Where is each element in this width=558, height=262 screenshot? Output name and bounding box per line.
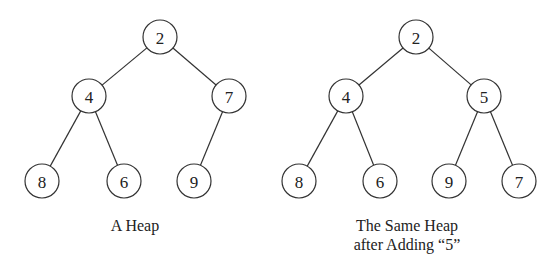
tree-original-heap: 247869 bbox=[25, 20, 246, 198]
node-label: 9 bbox=[445, 173, 454, 192]
tree-edge bbox=[173, 48, 216, 85]
node-label: 4 bbox=[85, 88, 94, 107]
heap-node: 2 bbox=[399, 20, 433, 54]
node-label: 5 bbox=[480, 88, 489, 107]
heap-node: 5 bbox=[467, 79, 501, 113]
tree-heap-after-adding-5: 2458697 bbox=[282, 20, 536, 198]
node-label: 2 bbox=[156, 29, 165, 48]
heap-node: 8 bbox=[282, 164, 316, 198]
caption-line: A Heap bbox=[85, 216, 185, 235]
tree-edge bbox=[352, 112, 373, 165]
node-label: 6 bbox=[376, 173, 385, 192]
node-label: 2 bbox=[412, 29, 421, 48]
heap-node: 4 bbox=[329, 79, 363, 113]
node-label: 8 bbox=[295, 173, 304, 192]
tree-edge bbox=[95, 112, 117, 166]
node-label: 4 bbox=[342, 88, 351, 107]
caption-heap-after-adding: The Same Heap after Adding “5” bbox=[337, 216, 477, 254]
node-label: 7 bbox=[515, 173, 524, 192]
tree-edge bbox=[307, 111, 338, 166]
tree-edge bbox=[359, 48, 403, 85]
tree-edge bbox=[429, 48, 471, 85]
caption-line: after Adding “5” bbox=[337, 235, 477, 254]
heap-node: 2 bbox=[143, 20, 177, 54]
heap-node: 7 bbox=[502, 164, 536, 198]
heap-node: 7 bbox=[212, 79, 246, 113]
node-label: 8 bbox=[38, 173, 47, 192]
node-label: 7 bbox=[225, 88, 234, 107]
heap-node: 6 bbox=[107, 164, 141, 198]
tree-edge bbox=[455, 112, 477, 166]
tree-edge bbox=[200, 112, 222, 166]
tree-edge bbox=[50, 111, 81, 166]
heap-node: 8 bbox=[25, 164, 59, 198]
heap-node: 4 bbox=[72, 79, 106, 113]
heap-node: 6 bbox=[363, 164, 397, 198]
caption-line: The Same Heap bbox=[337, 216, 477, 235]
caption-original-heap: A Heap bbox=[85, 216, 185, 235]
heap-node: 9 bbox=[177, 164, 211, 198]
node-label: 6 bbox=[120, 173, 129, 192]
tree-edge bbox=[102, 48, 147, 85]
tree-edge bbox=[490, 112, 512, 166]
node-label: 9 bbox=[190, 173, 199, 192]
heap-node: 9 bbox=[432, 164, 466, 198]
